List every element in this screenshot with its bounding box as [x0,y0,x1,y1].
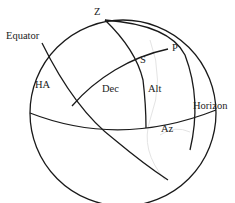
hour-angle-label: HA [35,79,51,90]
declination-label: Dec [102,83,119,94]
azimuth-label: Az [161,123,174,134]
equator-line [42,43,168,180]
horizon-line [30,110,216,130]
star-label: S [140,54,146,65]
celestial-sphere-diagram: Z P S Equator Horizon HA Dec Alt Az [0,0,235,203]
declination-line [72,49,168,106]
zenith-label: Z [94,6,100,17]
pole-label: P [172,42,178,53]
sphere-outline [30,20,216,203]
watermark-curve [147,40,165,180]
altitude-line [105,20,146,128]
horizon-label: Horizon [193,100,228,111]
altitude-label: Alt [148,83,162,94]
equator-label: Equator [6,30,40,41]
